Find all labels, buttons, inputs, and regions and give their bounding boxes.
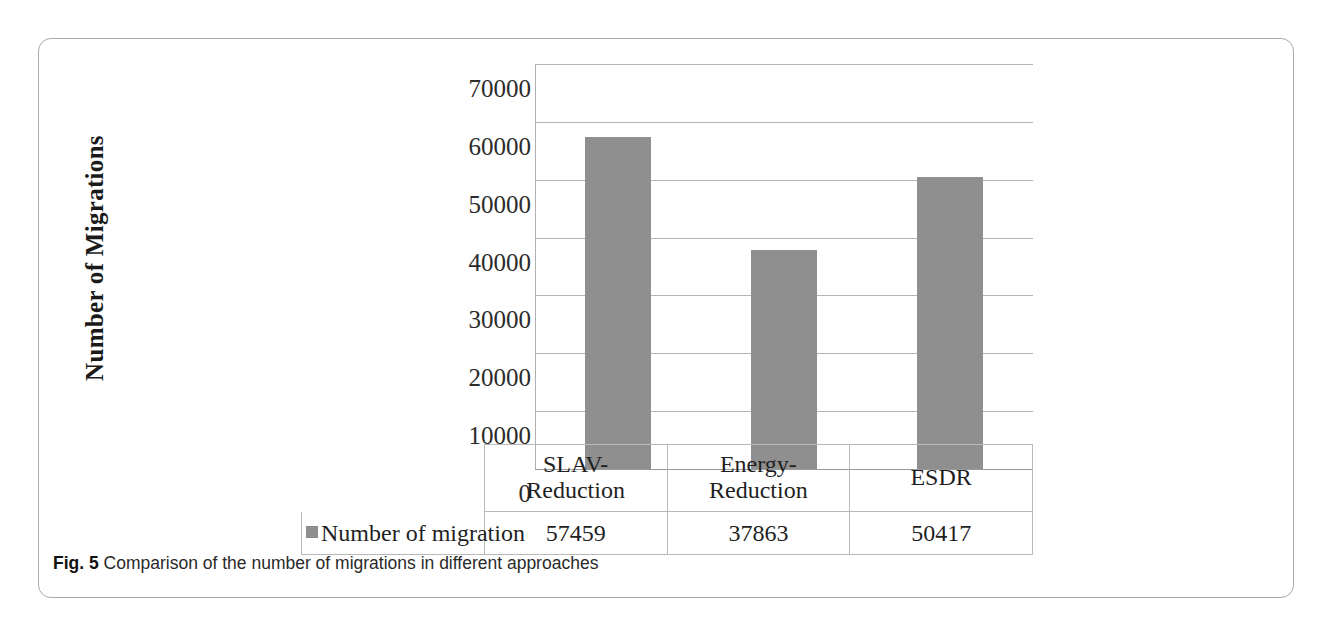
gridline-70000	[535, 64, 1033, 65]
y-axis-tick-labels: 700006000050000400003000020000100000	[421, 64, 531, 469]
legend-entry: Number of migration	[302, 512, 485, 555]
chart-area: Number of Migrations 7000060000500004000…	[39, 39, 1295, 539]
category-line-1-1: Reduction	[668, 478, 850, 504]
bar-esdr	[917, 177, 983, 469]
figure-caption-label: Fig. 5	[53, 553, 99, 573]
table-row-categories: SLAV- Reduction Energy- Reduction ESDR	[302, 445, 1033, 512]
category-line-2-0: ESDR	[850, 465, 1032, 491]
y-axis-line	[535, 64, 536, 469]
y-tick-label-70000: 70000	[421, 75, 531, 103]
value-cell-1: 37863	[667, 512, 850, 555]
y-tick-label-60000: 60000	[421, 133, 531, 161]
data-table: SLAV- Reduction Energy- Reduction ESDR N…	[301, 444, 1033, 555]
y-tick-label-20000: 20000	[421, 364, 531, 392]
category-line-0-1: Reduction	[485, 478, 667, 504]
table-corner-blank	[302, 445, 485, 512]
legend-swatch-icon	[306, 526, 318, 538]
category-cell-1: Energy- Reduction	[667, 445, 850, 512]
caption-divider	[53, 544, 1281, 545]
legend-label: Number of migration	[321, 520, 525, 546]
value-cell-2: 50417	[850, 512, 1033, 555]
plot-area	[535, 64, 1033, 469]
y-tick-label-50000: 50000	[421, 191, 531, 219]
category-cell-0: SLAV- Reduction	[484, 445, 667, 512]
category-cell-2: ESDR	[850, 445, 1033, 512]
figure-frame: Number of Migrations 7000060000500004000…	[38, 38, 1294, 598]
y-tick-label-40000: 40000	[421, 249, 531, 277]
figure-caption: Fig. 5 Comparison of the number of migra…	[53, 553, 598, 574]
gridline-60000	[535, 122, 1033, 123]
bar-slav-reduction	[585, 137, 651, 469]
bar-energy-reduction	[751, 250, 817, 469]
table-row-values: Number of migration 57459 37863 50417	[302, 512, 1033, 555]
figure-caption-text: Comparison of the number of migrations i…	[99, 553, 599, 573]
y-axis-title: Number of Migrations	[81, 128, 109, 388]
category-line-0-0: SLAV-	[485, 452, 667, 478]
y-tick-label-30000: 30000	[421, 306, 531, 334]
category-line-1-0: Energy-	[668, 452, 850, 478]
